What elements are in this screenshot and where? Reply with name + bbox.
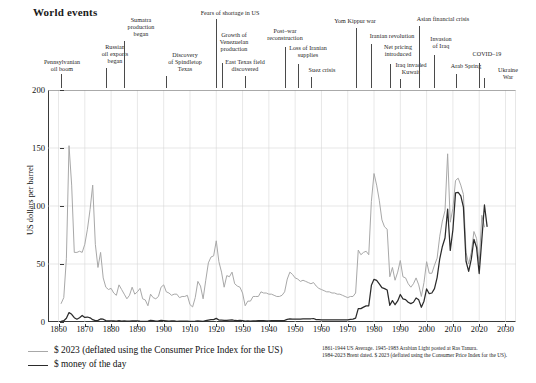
footnote-line: 1861-1944 US Average. 1945-1983 Arabian … [322, 345, 536, 352]
event-tick-mark [400, 79, 401, 88]
event-label: East Texas field discovered [225, 59, 265, 73]
y-tick-mark [60, 148, 64, 149]
event-label: Loss of Iranian supplies [289, 45, 327, 59]
event-tick-mark [371, 44, 372, 88]
legend-item: $ money of the day [28, 359, 328, 373]
y-tick-label: 0 [15, 317, 45, 327]
x-tick-label: 1960 [313, 325, 330, 334]
legend-color-swatch [28, 351, 48, 352]
x-tick-label: 1990 [392, 325, 409, 334]
y-tick-label: 150 [15, 143, 45, 153]
event-label: Suez crisis [309, 67, 336, 74]
event-label: Sumatra production began [128, 17, 155, 39]
y-tick-label: 50 [15, 259, 45, 269]
y-tick-label: 100 [15, 201, 45, 211]
y-tick-mark [60, 90, 64, 91]
y-tick-mark [60, 264, 64, 265]
data-series [48, 90, 516, 322]
event-tick-mark [124, 41, 125, 88]
event-label: Arab Spring [451, 63, 482, 70]
source-footnote: 1861-1944 US Average. 1945-1983 Arabian … [322, 345, 536, 360]
event-label: Yom Kippur war [334, 18, 376, 25]
event-tick-mark [456, 74, 457, 88]
event-tick-mark [434, 55, 435, 88]
event-tick-mark [479, 63, 480, 88]
x-tick-label: 1970 [339, 325, 356, 334]
event-tick-mark [298, 64, 299, 88]
oil-price-chart: World events Pennsylvanian oil boomRussi… [0, 0, 536, 383]
event-tick-mark [166, 76, 167, 88]
event-label: COVID–19 [473, 51, 502, 58]
y-axis-ticks: 050100150200 [12, 90, 45, 322]
event-tick-mark [245, 76, 246, 88]
event-label: Net pricing introduced [384, 44, 412, 58]
event-tick-mark [106, 68, 107, 88]
x-tick-label: 1880 [103, 325, 120, 334]
event-annotations-layer: Pennsylvanian oil boomRussian oil export… [0, 0, 536, 92]
event-label: Growth of Venezuelan production [220, 32, 249, 54]
event-label: Ukraine War [494, 67, 522, 81]
legend-color-swatch [28, 365, 48, 366]
x-tick-label: 1910 [182, 325, 199, 334]
event-tick-mark [356, 28, 357, 88]
x-tick-label: 2010 [445, 325, 462, 334]
x-tick-label: 2030 [497, 325, 514, 334]
event-tick-mark [222, 63, 223, 88]
x-tick-label: 1860 [50, 325, 67, 334]
event-label: Asian financial crisis [417, 16, 470, 23]
series-line [61, 146, 484, 307]
plot-area: US dollars per barrel [48, 90, 516, 322]
series-line [61, 192, 487, 321]
legend: $ 2023 (deflated using the Consumer Pric… [28, 345, 328, 373]
x-tick-label: 2000 [418, 325, 435, 334]
event-label: Post–war reconstruction [267, 28, 303, 42]
y-tick-mark [60, 322, 64, 323]
event-label: Discovery of Spindletop Texas [168, 52, 202, 74]
x-tick-label: 1980 [366, 325, 383, 334]
event-tick-mark [484, 78, 485, 88]
footnote-line: 1984-2023 Brent dated. $ 2023 (deflated … [322, 352, 536, 359]
x-tick-label: 1940 [260, 325, 277, 334]
y-tick-mark [60, 206, 64, 207]
event-tick-mark [390, 64, 391, 88]
x-tick-label: 1890 [129, 325, 146, 334]
event-tick-mark [419, 26, 420, 88]
event-label: Iranian revolution [370, 33, 415, 40]
x-tick-label: 1950 [287, 325, 304, 334]
event-label: Fears of shortage in US [201, 10, 260, 17]
x-tick-label: 2020 [471, 325, 488, 334]
legend-label: $ 2023 (deflated using the Consumer Pric… [54, 345, 283, 355]
event-label: Pennsylvanian oil boom [44, 59, 80, 73]
legend-label: $ money of the day [54, 359, 126, 369]
event-tick-mark [285, 47, 286, 88]
event-label: Invasion of Iraq [430, 36, 451, 50]
event-tick-mark [61, 74, 62, 88]
event-tick-mark [311, 77, 312, 88]
x-tick-label: 1920 [208, 325, 225, 334]
x-axis-ticks: 1860187018801890190019101920193019401950… [48, 324, 516, 340]
x-tick-label: 1930 [234, 325, 251, 334]
event-tick-mark [216, 19, 217, 88]
legend-item: $ 2023 (deflated using the Consumer Pric… [28, 345, 328, 359]
x-tick-label: 1900 [155, 325, 172, 334]
event-label: Iraq invaded Kuwait [395, 62, 426, 76]
x-tick-label: 1870 [76, 325, 93, 334]
y-tick-label: 200 [15, 85, 45, 95]
